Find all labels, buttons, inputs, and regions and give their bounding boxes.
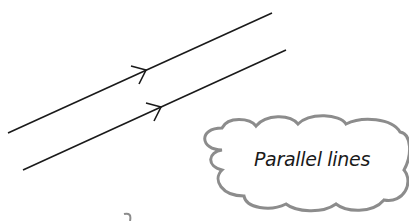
parallel-lines-diagram bbox=[0, 0, 409, 221]
line-1 bbox=[8, 13, 272, 133]
arrowhead-icon bbox=[131, 66, 146, 84]
tick-mark bbox=[124, 214, 130, 221]
cloud-label: Parallel lines bbox=[232, 148, 392, 170]
